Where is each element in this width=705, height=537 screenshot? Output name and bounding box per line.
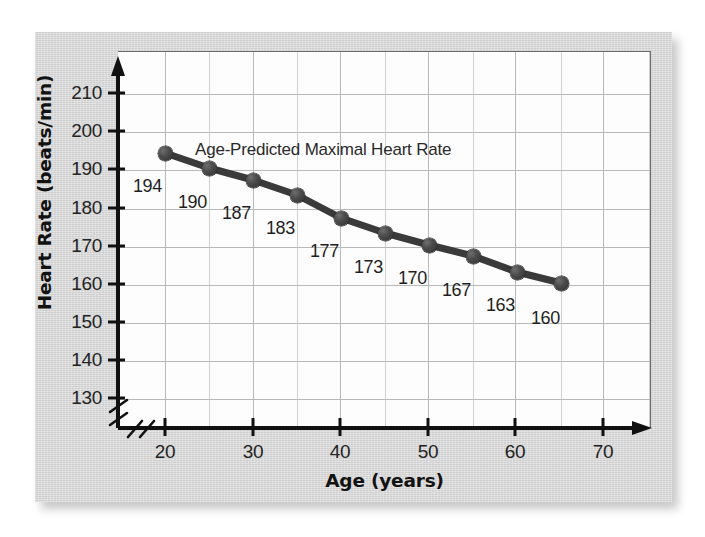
data-point-marker (510, 265, 525, 280)
data-point-marker (334, 211, 349, 226)
x-tick-label: 50 (403, 441, 453, 463)
y-tick-label: 140 (48, 349, 102, 371)
data-point-label: 190 (178, 192, 207, 213)
gridline-vertical (165, 52, 166, 428)
data-point-label: 183 (266, 218, 295, 239)
y-tick-label: 130 (48, 387, 102, 409)
x-tick-label: 40 (315, 441, 365, 463)
y-tick-label: 160 (48, 273, 102, 295)
gridline-horizontal (118, 285, 650, 286)
gridline-vertical-minor (297, 52, 298, 428)
figure-root: 210 200 190 180 170 160 150 140 130 20 3… (0, 0, 705, 537)
gridline-vertical-minor (209, 52, 210, 428)
data-point-label: 167 (442, 280, 471, 301)
data-point-label: 170 (398, 268, 427, 289)
data-point-marker (466, 249, 481, 264)
y-axis-title: Heart Rate (beats/min) (34, 43, 55, 343)
x-tick-label: 20 (140, 441, 190, 463)
gridline-vertical (603, 52, 604, 428)
data-point-label: 187 (222, 203, 251, 224)
y-tick-label: 170 (48, 235, 102, 257)
data-point-label: 163 (486, 295, 515, 316)
gridline-vertical-minor (649, 52, 650, 428)
data-point-label: 177 (310, 241, 339, 262)
y-tick-label: 200 (48, 120, 102, 142)
series-annotation: Age-Predicted Maximal Heart Rate (195, 140, 451, 160)
gridline-horizontal (118, 132, 650, 133)
gridline-horizontal (118, 247, 650, 248)
y-tick-label: 210 (48, 82, 102, 104)
gridline-horizontal (118, 323, 650, 324)
gridline-horizontal (118, 361, 650, 362)
gridline-horizontal (118, 170, 650, 171)
data-point-marker (246, 173, 261, 188)
data-point-label: 194 (133, 176, 162, 197)
data-point-label: 160 (531, 308, 560, 329)
gridline-vertical-minor (561, 52, 562, 428)
gridline-horizontal (118, 94, 650, 95)
data-point-marker (202, 161, 217, 176)
y-tick-label: 180 (48, 197, 102, 219)
x-tick-label: 60 (490, 441, 540, 463)
gridline-vertical (253, 52, 254, 428)
data-point-marker (290, 188, 305, 203)
gridline-vertical (340, 52, 341, 428)
x-tick-label: 70 (578, 441, 628, 463)
x-tick-label: 30 (228, 441, 278, 463)
data-point-marker (158, 146, 173, 161)
data-point-marker (422, 238, 437, 253)
gridline-horizontal (118, 399, 650, 400)
data-point-marker (554, 276, 569, 291)
x-axis-title: Age (years) (118, 470, 651, 491)
y-tick-label: 150 (48, 311, 102, 333)
y-tick-label: 190 (48, 158, 102, 180)
data-point-marker (378, 226, 393, 241)
gridline-vertical-minor (473, 52, 474, 428)
gridline-vertical (515, 52, 516, 428)
data-point-label: 173 (354, 257, 383, 278)
